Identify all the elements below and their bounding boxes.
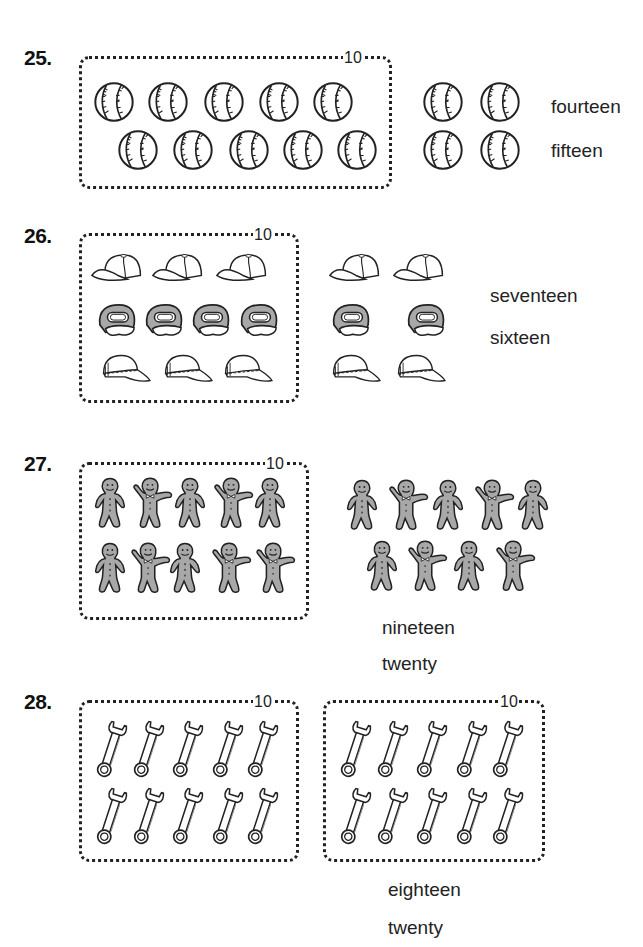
batting-helmet-icon	[330, 302, 372, 340]
gingerbread-man-icon	[173, 475, 207, 531]
wrench-icon	[131, 785, 165, 847]
baseball-icon	[146, 80, 190, 124]
batting-helmet-icon	[190, 302, 232, 340]
gingerbread-man-icon	[93, 475, 127, 531]
baseball-icon	[335, 128, 379, 172]
baseball-cap-icon	[392, 251, 448, 285]
gingerbread-man-waving-icon	[131, 475, 173, 531]
baseball-cap-icon	[151, 251, 207, 285]
wrench-icon	[490, 785, 524, 847]
answer-choice[interactable]: fourteen	[551, 96, 621, 118]
baseball-cap-icon	[90, 251, 146, 285]
gingerbread-man-waving-icon	[254, 540, 296, 596]
wrench-icon	[490, 718, 524, 780]
answer-choice[interactable]: seventeen	[490, 285, 578, 307]
baseball-icon	[171, 128, 215, 172]
wrench-icon	[170, 785, 204, 847]
cap-side-icon	[98, 352, 152, 384]
baseball-icon	[421, 128, 465, 172]
ten-label: 10	[253, 694, 273, 710]
batting-helmet-icon	[143, 302, 185, 340]
gingerbread-man-waving-icon	[473, 477, 515, 533]
answer-choice[interactable]: fifteen	[551, 140, 603, 162]
wrench-icon	[375, 718, 409, 780]
batting-helmet-icon	[96, 302, 138, 340]
wrench-icon	[414, 718, 448, 780]
problem-number: 28.	[24, 690, 52, 714]
gingerbread-man-icon	[516, 477, 550, 533]
wrench-icon	[245, 718, 279, 780]
baseball-icon	[421, 80, 465, 124]
answer-choice[interactable]: twenty	[382, 653, 437, 675]
ten-label: 10	[265, 456, 285, 472]
baseball-icon	[92, 80, 136, 124]
baseball-icon	[116, 128, 160, 172]
cap-side-icon	[220, 352, 274, 384]
gingerbread-man-waving-icon	[406, 538, 448, 594]
wrench-icon	[338, 785, 372, 847]
batting-helmet-icon	[238, 302, 280, 340]
baseball-icon	[311, 80, 355, 124]
baseball-icon	[257, 80, 301, 124]
gingerbread-man-icon	[168, 540, 202, 596]
answer-choice[interactable]: twenty	[388, 917, 443, 939]
gingerbread-man-icon	[452, 538, 486, 594]
cap-side-icon	[393, 352, 447, 384]
answer-choice[interactable]: nineteen	[382, 617, 455, 639]
cap-side-icon	[160, 352, 214, 384]
answer-choice[interactable]: sixteen	[490, 327, 550, 349]
gingerbread-man-icon	[345, 477, 379, 533]
gingerbread-man-waving-icon	[494, 538, 536, 594]
baseball-cap-icon	[215, 251, 271, 285]
wrench-icon	[210, 718, 244, 780]
problem-number: 27.	[24, 452, 52, 476]
baseball-icon	[281, 128, 325, 172]
wrench-icon	[338, 718, 372, 780]
gingerbread-man-waving-icon	[129, 540, 171, 596]
wrench-icon	[245, 785, 279, 847]
ten-label: 10	[499, 694, 519, 710]
problem-number: 25.	[24, 46, 52, 70]
wrench-icon	[170, 718, 204, 780]
wrench-icon	[414, 785, 448, 847]
cap-side-icon	[328, 352, 382, 384]
baseball-icon	[227, 128, 271, 172]
gingerbread-man-icon	[431, 477, 465, 533]
wrench-icon	[94, 785, 128, 847]
wrench-icon	[131, 718, 165, 780]
gingerbread-man-icon	[253, 475, 287, 531]
ten-label: 10	[343, 50, 363, 66]
gingerbread-man-icon	[365, 538, 399, 594]
wrench-icon	[454, 785, 488, 847]
ten-label: 10	[253, 227, 273, 243]
gingerbread-man-icon	[93, 540, 127, 596]
problem-number: 26.	[24, 224, 52, 248]
gingerbread-man-waving-icon	[210, 540, 252, 596]
wrench-icon	[94, 718, 128, 780]
batting-helmet-icon	[405, 302, 447, 340]
baseball-icon	[202, 80, 246, 124]
gingerbread-man-waving-icon	[212, 475, 254, 531]
baseball-icon	[478, 128, 522, 172]
gingerbread-man-waving-icon	[387, 477, 429, 533]
wrench-icon	[375, 785, 409, 847]
wrench-icon	[454, 718, 488, 780]
wrench-icon	[210, 785, 244, 847]
baseball-cap-icon	[328, 251, 384, 285]
baseball-icon	[478, 80, 522, 124]
answer-choice[interactable]: eighteen	[388, 879, 461, 901]
